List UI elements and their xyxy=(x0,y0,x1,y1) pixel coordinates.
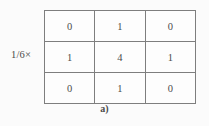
table-row: 0 1 0 xyxy=(45,11,196,42)
table-row: 1 4 1 xyxy=(45,42,196,73)
figure-caption: a) xyxy=(0,103,209,114)
kernel-figure: 1/6× 0 1 0 1 4 1 0 1 0 a) xyxy=(0,0,209,126)
table-row: 0 1 0 xyxy=(45,73,196,104)
matrix-cell-r1c2: 1 xyxy=(145,42,195,73)
matrix-cell-r0c0: 0 xyxy=(45,11,95,42)
scalar-multiplier-label: 1/6× xyxy=(11,47,45,63)
matrix-cell-r2c0: 0 xyxy=(45,73,95,104)
matrix-cell-r0c2: 0 xyxy=(145,11,195,42)
kernel-matrix-table: 0 1 0 1 4 1 0 1 0 xyxy=(44,10,196,104)
matrix-cell-r1c1: 4 xyxy=(95,42,145,73)
matrix-cell-r2c2: 0 xyxy=(145,73,195,104)
matrix-cell-r2c1: 1 xyxy=(95,73,145,104)
matrix-cell-r1c0: 1 xyxy=(45,42,95,73)
matrix-cell-r0c1: 1 xyxy=(95,11,145,42)
